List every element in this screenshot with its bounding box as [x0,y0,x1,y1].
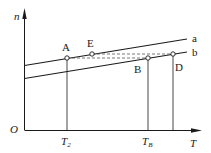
diagram-canvas: n T O a b A E B D T2 TB [0,0,211,153]
point-A [65,56,69,60]
tick-TB-sub: B [148,141,153,149]
point-D [171,52,175,56]
line-a-label: a [192,32,197,44]
point-D-label: D [175,61,183,73]
point-E-label: E [87,37,94,49]
point-B-label: B [134,63,141,75]
origin-label: O [10,123,18,135]
tick-T2: T2 [61,135,71,149]
y-axis-arrow-icon [22,8,26,19]
line-a [25,39,188,66]
point-A-label: A [62,41,70,53]
x-tick-labels: T2 TB [61,135,153,149]
point-E [90,52,94,56]
tick-T2-sub: 2 [67,141,71,149]
y-axis-label: n [14,10,20,22]
x-axis-arrow-icon [191,128,202,132]
line-b-label: b [192,46,198,58]
vertical-lines [67,54,173,131]
tick-TB: TB [142,135,153,149]
line-b [25,52,188,79]
x-axis-label: T [190,137,197,149]
point-B [146,56,150,60]
